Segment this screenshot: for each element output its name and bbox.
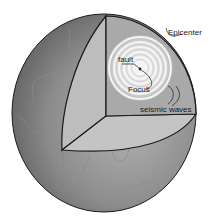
focus-label: Focus [128, 85, 150, 94]
focus-point [139, 68, 142, 71]
seismic-waves-label: seismic waves [140, 105, 192, 114]
fault-label: fault [118, 55, 134, 64]
epicenter-label: Epicenter [168, 28, 202, 37]
earthquake-diagram: Epicenter fault Focus seismic waves [0, 0, 215, 223]
